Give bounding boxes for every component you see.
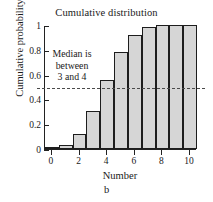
x-axis-tick-label: 8 <box>147 156 175 167</box>
y-axis-tick-label: 1 <box>1 21 41 31</box>
x-axis-tick <box>189 150 190 155</box>
x-axis-tick <box>51 150 52 155</box>
x-axis-tick <box>79 150 80 155</box>
y-axis-tick <box>44 26 49 27</box>
y-axis-tick-label: 0.8 <box>1 46 41 56</box>
x-axis-tick-label: 4 <box>92 156 120 167</box>
bar <box>128 35 142 149</box>
y-axis-tick <box>44 150 49 151</box>
x-axis-tick <box>161 150 162 155</box>
x-axis-tick-label: 2 <box>65 156 93 167</box>
y-axis-tick <box>44 76 49 77</box>
median-annotation-line-1: Median is <box>36 48 108 60</box>
bar <box>183 25 197 149</box>
median-annotation-line-2: between <box>36 60 108 72</box>
x-axis-tick-label: 6 <box>120 156 148 167</box>
x-axis-tick-label: 10 <box>175 156 203 167</box>
y-axis-tick-label: 0 <box>1 145 41 155</box>
bar <box>86 111 100 149</box>
bar <box>59 145 73 149</box>
median-reference-line <box>37 88 205 89</box>
bar <box>100 80 114 149</box>
x-axis-title: Number <box>44 170 196 182</box>
chart-title: Cumulative distribution <box>0 7 213 19</box>
y-axis-tick-label: 0.4 <box>1 95 41 105</box>
bar <box>169 25 183 149</box>
bar <box>45 147 59 149</box>
y-axis-tick-label: 0.2 <box>1 120 41 130</box>
x-axis-tick <box>106 150 107 155</box>
y-axis-tick <box>44 125 49 126</box>
bar <box>156 25 170 149</box>
bar <box>73 134 87 149</box>
x-axis-tick-label: 0 <box>37 156 65 167</box>
y-axis-tick <box>44 100 49 101</box>
y-axis-tick <box>44 51 49 52</box>
x-axis-tick <box>134 150 135 155</box>
cumulative-distribution-figure: Cumulative distribution Cumulative proba… <box>0 0 213 202</box>
median-annotation: Median is between 3 and 4 <box>36 48 108 83</box>
median-annotation-line-3: 3 and 4 <box>36 71 108 83</box>
bar <box>114 52 128 149</box>
figure-caption: b <box>0 184 213 196</box>
y-axis-tick-label: 0.6 <box>1 71 41 81</box>
